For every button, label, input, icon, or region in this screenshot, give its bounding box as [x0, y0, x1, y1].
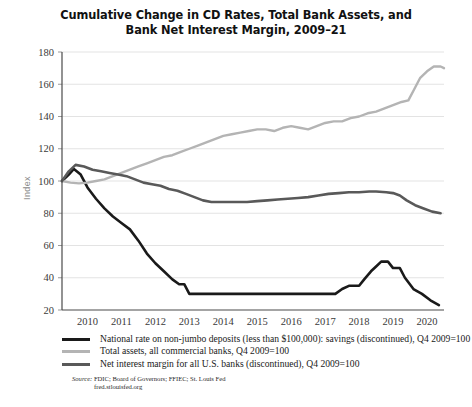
- series-line-cd-rates: [62, 169, 439, 305]
- x-axis-tick-label: 2016: [281, 316, 302, 327]
- chart-figure: Cumulative Change in CD Rates, Total Ban…: [0, 0, 472, 407]
- y-axis-tick-label: 60: [44, 240, 55, 251]
- legend-label-net-interest-margin: Net interest margin for all U.S. banks (…: [100, 358, 359, 370]
- y-axis-tick-label: 40: [44, 272, 55, 283]
- legend-swatch-net-interest-margin: [62, 363, 90, 366]
- chart-legend: National rate on non-jumbo deposits (les…: [62, 333, 462, 370]
- legend-item-cd-rates: National rate on non-jumbo deposits (les…: [62, 333, 462, 345]
- y-axis-tick-labels: 20406080100120140160180: [38, 47, 54, 316]
- legend-swatch-total-assets: [62, 350, 90, 353]
- source-line-url: fred.stlouisfed.org: [72, 383, 225, 391]
- legend-item-total-assets: Total assets, all commercial banks, Q4 2…: [62, 345, 462, 357]
- y-axis-tick-label: 160: [38, 79, 54, 90]
- x-axis-tick-labels: 2010201120122013201420152016201720182019…: [77, 316, 438, 327]
- legend-swatch-cd-rates: [62, 338, 90, 341]
- series-line-net-interest-margin: [62, 165, 441, 213]
- y-axis-tick-label: 180: [38, 47, 54, 58]
- y-axis-tick-label: 140: [38, 111, 54, 122]
- x-axis-tick-label: 2020: [417, 316, 438, 327]
- x-axis-tick-label: 2012: [145, 316, 166, 327]
- y-axis-tick-label: 80: [44, 208, 55, 219]
- x-axis-tick-label: 2013: [179, 316, 200, 327]
- source-note: Source: FDIC; Board of Governors; FFIEC;…: [72, 375, 225, 392]
- x-axis-tick-label: 2011: [111, 316, 132, 327]
- x-axis-tick-label: 2017: [315, 316, 336, 327]
- legend-label-cd-rates: National rate on non-jumbo deposits (les…: [100, 333, 470, 345]
- x-axis-tick-label: 2018: [349, 316, 370, 327]
- grid-lines: [58, 52, 444, 310]
- x-axis-tick-label: 2014: [213, 316, 235, 327]
- x-axis-tick-label: 2019: [383, 316, 404, 327]
- y-axis-title: Index: [22, 176, 32, 200]
- data-series-group: [62, 67, 444, 306]
- y-axis-tick-label: 20: [44, 305, 55, 316]
- x-axis-tick-label: 2010: [77, 316, 98, 327]
- x-axis-tick-label: 2015: [247, 316, 268, 327]
- source-prefix: Source:: [72, 375, 92, 382]
- source-text: FDIC; Board of Governors; FFIEC; St. Lou…: [94, 375, 226, 382]
- y-axis-tick-label: 120: [38, 143, 54, 154]
- source-line-main: Source: FDIC; Board of Governors; FFIEC;…: [72, 375, 225, 383]
- legend-item-net-interest-margin: Net interest margin for all U.S. banks (…: [62, 358, 462, 370]
- legend-label-total-assets: Total assets, all commercial banks, Q4 2…: [100, 345, 289, 357]
- y-axis-tick-label: 100: [38, 176, 54, 187]
